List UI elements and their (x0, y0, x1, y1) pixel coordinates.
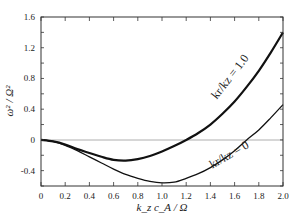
x-tick-label: 0.6 (108, 191, 120, 201)
x-tick-label: 2.0 (277, 191, 289, 201)
y-tick-label: 1.6 (24, 12, 36, 22)
series-layer (41, 32, 283, 183)
x-tick-label: 1.2 (181, 191, 192, 201)
x-axis-label: k_z c_A / Ω (137, 201, 188, 213)
x-tick-label: 0.2 (60, 191, 71, 201)
x-tick-label: 1.0 (156, 191, 168, 201)
annotation-kr-kz-1: kr/kz = 1.0 (208, 52, 251, 102)
y-tick-label: 0.8 (24, 73, 36, 83)
y-tick-label: 0 (31, 135, 36, 145)
y-tick-label: -0.4 (21, 166, 36, 176)
y-ticks: 1.61.20.80.40-0.4 (21, 12, 283, 186)
x-tick-label: 0 (39, 191, 44, 201)
x-tick-label: 1.8 (253, 191, 265, 201)
annotation-kr-kz-0: kr/kz = 0 (207, 138, 252, 172)
y-tick-label: 1.2 (24, 43, 35, 53)
x-tick-label: 0.4 (84, 191, 96, 201)
plot-frame (41, 17, 283, 186)
y-axis-label: ω² / Ω² (3, 85, 15, 117)
x-tick-label: 1.4 (205, 191, 217, 201)
x-tick-label: 1.6 (229, 191, 241, 201)
chart: 00.20.40.60.81.01.21.41.61.82.0 1.61.20.… (0, 0, 304, 224)
y-tick-label: 0.4 (24, 104, 36, 114)
x-ticks: 00.20.40.60.81.01.21.41.61.82.0 (39, 17, 289, 201)
x-tick-label: 0.8 (132, 191, 144, 201)
series-line-0 (41, 32, 283, 160)
